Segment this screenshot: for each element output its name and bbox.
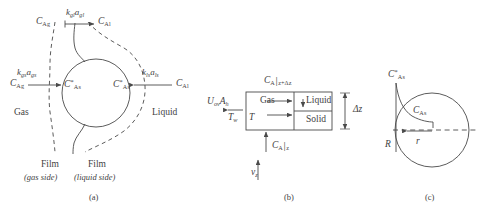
panel-b-height-label: Δz — [353, 105, 362, 115]
panel-b-caption: (b) — [284, 193, 294, 202]
panel-a-liquid-film-sublabel: (liquid side) — [74, 173, 115, 182]
panel-a-gas-region-label: Gas — [14, 108, 29, 118]
panel-a-liquid-region-label: Liquid — [152, 108, 177, 118]
panel-a-particle-circle — [62, 59, 130, 127]
panel-a-graphics — [28, 21, 172, 155]
panel-a-gas-liquid-interface-lower — [73, 124, 85, 154]
panel-b-graphics — [228, 92, 350, 180]
panel-c-surface-concentration: C*As — [388, 69, 405, 80]
panel-b-inlet-flux-label: CA|z — [272, 140, 289, 151]
panel-b-overall-heat-transfer-term: UovAh — [207, 97, 229, 107]
panel-b-wall-temperature: Tw — [228, 113, 237, 123]
panel-c-outer-radius-label: R — [385, 140, 391, 150]
panel-c-interior-concentration: CAs — [413, 106, 426, 116]
panel-a-liquid-solid-coefficient: klsals — [142, 68, 159, 78]
panel-c-concentration-profile — [396, 83, 433, 122]
panel-c-radial-coordinate-label: r — [416, 137, 420, 147]
panel-a-gas-bulk-concentration-top: CAg — [36, 17, 50, 27]
panel-a-surface-concentration-right: C*As — [113, 79, 130, 90]
panel-b-axial-velocity: vz — [251, 168, 258, 178]
panel-b-gas-cell-label: Gas — [260, 96, 275, 106]
panel-a-gas-liquid-interface-upper — [74, 23, 85, 62]
panel-a-surface-concentration-left: C*As — [64, 79, 81, 90]
panel-a-gas-film-sublabel: (gas side) — [24, 173, 57, 182]
panel-a-liquid-bulk-concentration-right: CAl — [176, 79, 189, 89]
panel-a-gas-film-boundary — [49, 22, 55, 152]
panel-b-solid-cell-label: Solid — [306, 115, 326, 125]
panel-b-bulk-temperature: T — [249, 113, 254, 123]
panel-a-liquid-bulk-concentration-top: CAl — [98, 17, 111, 27]
panel-c-graphics — [393, 83, 478, 167]
panel-a-gas-film-label: Film — [41, 160, 59, 170]
panel-a-caption: (a) — [89, 193, 98, 202]
panel-b-outlet-flux-label: CA|z+Δz — [264, 75, 292, 86]
panel-c-caption: (c) — [425, 193, 434, 202]
panel-a-gas-solid-coefficient: kgsags — [17, 68, 37, 78]
panel-b-liquid-cell-label: Liquid — [306, 96, 331, 106]
panel-a-liquid-film-label: Film — [88, 160, 106, 170]
panel-a-gas-bulk-concentration-left: CAg — [10, 79, 24, 89]
figure-root: CAg kglagl CAl kgsags CAg C*As C*As klsa… — [0, 0, 491, 213]
panel-a-gas-liquid-coefficient: kglagl — [66, 8, 84, 18]
